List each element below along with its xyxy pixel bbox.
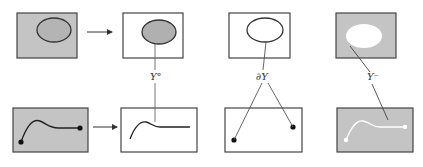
panel-boundary <box>229 13 290 70</box>
panel-path-endpoints <box>225 83 302 152</box>
panel-path-interior <box>121 83 197 152</box>
panel-complement <box>336 13 396 72</box>
panel-interior <box>123 13 183 70</box>
panel-region <box>17 13 77 58</box>
label-complement: Y⁻ <box>367 71 379 82</box>
label-boundary: ∂Y <box>256 71 269 82</box>
label-interior: Y° <box>150 71 162 82</box>
diagram-canvas: Y° ∂Y Y⁻ <box>0 0 423 167</box>
panel-path-complement <box>337 84 413 152</box>
panel-path <box>13 108 88 152</box>
